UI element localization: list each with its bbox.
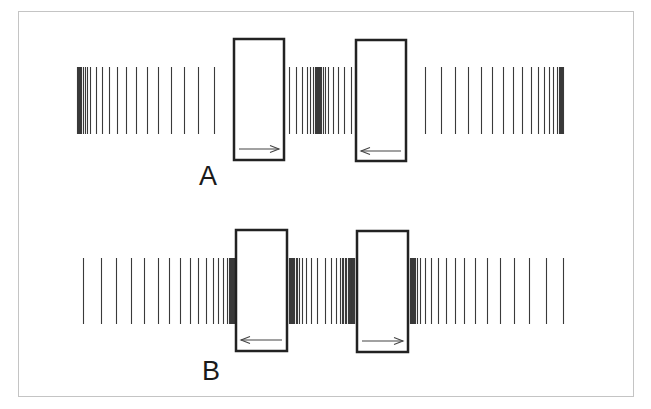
grating-diagram: [0, 0, 651, 409]
row-b: [84, 230, 564, 352]
box-b1: [236, 230, 287, 351]
row-a-label: A: [199, 163, 217, 190]
row-a: [78, 39, 564, 161]
box-a2: [356, 40, 406, 161]
box-b2: [357, 231, 408, 352]
row-b-label: B: [202, 358, 220, 385]
box-a1: [234, 39, 284, 160]
